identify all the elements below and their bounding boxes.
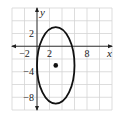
center-point bbox=[53, 63, 58, 68]
x-axis-label: x bbox=[106, 47, 112, 59]
y-tick-label: −8 bbox=[23, 92, 34, 103]
y-tick-label: 2 bbox=[29, 28, 34, 39]
center-points bbox=[53, 63, 58, 68]
y-axis-label: y bbox=[39, 6, 45, 18]
x-tick-label: −2 bbox=[19, 48, 30, 59]
x-tick-label: 8 bbox=[85, 48, 90, 59]
y-tick-label: −4 bbox=[23, 66, 34, 77]
x-tick-label: 2 bbox=[47, 48, 52, 59]
ellipse-graph: −2282−4−8 x y bbox=[0, 0, 123, 124]
